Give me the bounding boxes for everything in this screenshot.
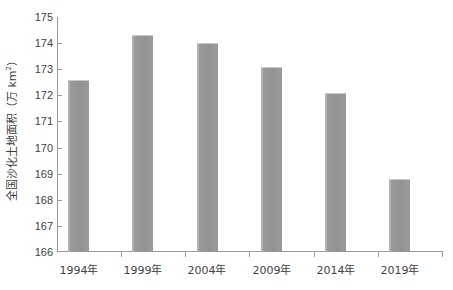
y-tick-label: 174 xyxy=(23,37,53,49)
x-tick-label-1999: 1999年 xyxy=(111,261,175,277)
x-tick-label-2009: 2009年 xyxy=(240,261,304,277)
x-tick-mark xyxy=(442,252,443,257)
bar-2019 xyxy=(389,179,410,252)
bar-2009 xyxy=(261,67,282,252)
y-tick-label: 175 xyxy=(23,11,53,23)
y-tick-label: 166 xyxy=(23,246,53,258)
x-tick-label-2019: 2019年 xyxy=(368,261,432,277)
x-tick-label-2014: 2014年 xyxy=(304,261,368,277)
bar-1999 xyxy=(132,35,153,252)
y-tick-label: 169 xyxy=(23,168,53,180)
y-tick-label: 170 xyxy=(23,142,53,154)
x-tick-label-1994: 1994年 xyxy=(47,261,111,277)
y-axis-tick-labels: 175 174 173 172 171 170 169 168 167 166 xyxy=(20,0,53,290)
y-tick-label: 172 xyxy=(23,89,53,101)
y-tick-label: 167 xyxy=(23,220,53,232)
y-axis-title-main: 全国沙化土地面积（万 km xyxy=(6,70,19,201)
bar-2014 xyxy=(325,93,346,252)
x-tick-mark xyxy=(185,252,186,257)
y-tick-label: 168 xyxy=(23,194,53,206)
bar-2004 xyxy=(197,43,218,252)
y-tick-label: 171 xyxy=(23,115,53,127)
bar-chart: 全国沙化土地面积（万 km2） 175 174 173 172 171 170 … xyxy=(0,0,453,290)
y-tick-label: 173 xyxy=(23,63,53,75)
x-tick-mark xyxy=(249,252,250,257)
x-tick-mark xyxy=(314,252,315,257)
bar-1994 xyxy=(68,80,89,252)
x-tick-label-2004: 2004年 xyxy=(175,261,239,277)
y-axis-title-text: 全国沙化土地面积（万 km2） xyxy=(3,54,19,200)
y-axis-title-tail: ） xyxy=(6,54,19,65)
x-tick-mark xyxy=(121,252,122,257)
y-axis-title: 全国沙化土地面积（万 km2） xyxy=(0,0,22,255)
y-axis-title-superscript: 2 xyxy=(5,65,13,69)
x-tick-mark xyxy=(378,252,379,257)
plot-area xyxy=(57,17,443,252)
